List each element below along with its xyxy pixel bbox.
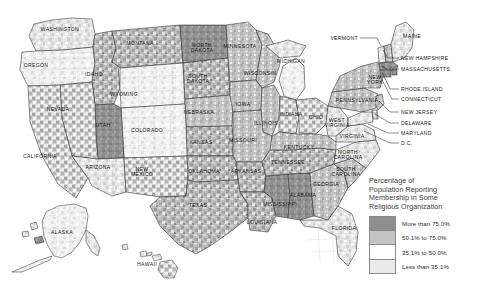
state-michigan-lower	[279, 58, 305, 100]
legend-row: Less than 35.1%	[369, 260, 480, 274]
state-massachusetts	[379, 62, 398, 71]
legend-title: Percentage of Population Reporting Membe…	[369, 177, 480, 211]
hawaii-big-island	[158, 260, 178, 278]
state-alaska	[42, 204, 88, 258]
state-new-mexico	[124, 156, 188, 197]
legend-label: 50.1% to 75.0%	[402, 234, 446, 241]
hawaii-molokai	[147, 252, 152, 256]
state-montana	[112, 25, 183, 68]
hawaii-oahu	[140, 251, 147, 257]
state-alabama	[288, 173, 314, 220]
state-rhode-island	[392, 70, 397, 75]
legend-label: 35.1% to 50.0%	[402, 249, 446, 256]
state-illinois	[261, 85, 280, 136]
legend-row: More than 75.0%	[369, 216, 480, 230]
map-figure: WASHINGTONOREGONIDAHOMONTANANORTH DAKOTA…	[0, 0, 480, 297]
alaska-island-3	[22, 231, 29, 237]
hawaii-inset	[122, 244, 178, 278]
alaska-panhandle	[86, 230, 100, 256]
legend-swatch	[369, 260, 396, 274]
state-oregon	[20, 47, 95, 86]
alaska-aleutians	[12, 256, 52, 272]
state-arkansas	[236, 162, 266, 192]
state-south-dakota	[183, 58, 230, 99]
state-washington	[29, 18, 95, 51]
hawaii-maui	[152, 254, 162, 261]
map-legend: Percentage of Population Reporting Membe…	[369, 177, 480, 274]
alaska-inset	[12, 204, 100, 272]
legend-swatch	[369, 231, 396, 245]
state-north-dakota	[180, 25, 228, 63]
state-iowa	[230, 80, 262, 112]
state-oklahoma	[187, 156, 238, 182]
state-wisconsin	[256, 30, 280, 88]
state-delaware	[372, 110, 378, 119]
state-kansas	[186, 126, 233, 156]
legend-swatch	[369, 216, 396, 230]
legend-row: 35.1% to 50.0%	[369, 245, 480, 259]
state-maryland	[348, 112, 373, 126]
state-connecticut	[380, 70, 391, 77]
legend-label: Less than 35.1%	[402, 263, 449, 270]
legend-swatch	[369, 245, 396, 259]
legend-row: 50.1% to 75.0%	[369, 231, 480, 245]
hawaii-kauai	[122, 244, 128, 250]
state-maine	[391, 22, 414, 62]
alaska-island-1	[30, 222, 38, 230]
legend-label: More than 75.0%	[402, 220, 450, 227]
state-indiana	[279, 96, 299, 134]
alaska-island-2	[34, 236, 44, 244]
state-new-jersey	[375, 94, 384, 110]
legend-class-list: More than 75.0%50.1% to 75.0%35.1% to 50…	[369, 216, 480, 274]
state-wyoming	[120, 63, 185, 108]
